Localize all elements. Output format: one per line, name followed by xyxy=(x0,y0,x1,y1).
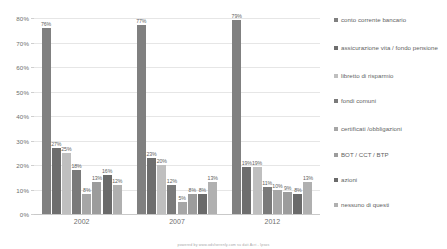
bar-fill xyxy=(178,202,187,214)
bar: 8% xyxy=(293,194,302,214)
bar-value-label: 18% xyxy=(72,163,82,169)
bar: 12% xyxy=(167,185,176,214)
bar: 11% xyxy=(263,187,272,214)
bar-value-label: 16% xyxy=(102,168,112,174)
bar: 8% xyxy=(198,194,207,214)
bar-fill xyxy=(42,28,51,214)
gridline xyxy=(34,214,320,215)
bar-value-label: 8% xyxy=(83,187,90,193)
bar-value-label: 77% xyxy=(136,18,146,24)
legend-item[interactable]: BOT / CCT / BTP xyxy=(334,151,446,159)
legend-swatch-icon xyxy=(334,127,338,131)
y-axis-tick-label: 50% xyxy=(16,88,29,95)
bar-value-label: 23% xyxy=(146,151,156,157)
legend-swatch-icon xyxy=(334,99,338,103)
legend-label: nessuno di questi xyxy=(341,201,389,209)
legend-item[interactable]: certificati /obbligazioni xyxy=(334,125,446,133)
bar: 19% xyxy=(242,167,251,214)
y-axis-tick-label: 0% xyxy=(20,211,29,218)
legend-item[interactable]: azioni xyxy=(334,176,446,184)
x-axis-tick-label: 2012 xyxy=(265,218,281,225)
bar: 77% xyxy=(137,25,146,214)
bar-fill xyxy=(92,182,101,214)
legend-label: fondi comuni xyxy=(341,97,376,105)
legend-label: BOT / CCT / BTP xyxy=(341,151,389,159)
bar-fill xyxy=(147,158,156,214)
bar: 20% xyxy=(157,165,166,214)
bar-value-label: 13% xyxy=(92,175,102,181)
bar: 79% xyxy=(232,20,241,214)
bar: 5% xyxy=(178,202,187,214)
x-axis-tick-label: 2007 xyxy=(169,218,185,225)
bar-value-label: 8% xyxy=(189,187,196,193)
y-axis-tick-label: 10% xyxy=(16,186,29,193)
y-axis-tick-label: 70% xyxy=(16,39,29,46)
y-axis: 80%70%60%50%40%30%20%10%0% xyxy=(0,18,32,214)
bar-value-label: 20% xyxy=(157,158,167,164)
bar-value-label: 19% xyxy=(252,160,262,166)
legend-label: azioni xyxy=(341,176,357,184)
bar-value-label: 8% xyxy=(294,187,301,193)
bar-value-label: 12% xyxy=(112,178,122,184)
legend-item[interactable]: assicurazione vita / fondo pensione xyxy=(334,44,446,52)
plot-area: 80%70%60%50%40%30%20%10%0% 76%27%25%18%8… xyxy=(0,0,330,249)
bar-value-label: 19% xyxy=(242,160,252,166)
bar: 27% xyxy=(52,148,61,214)
bar-fill xyxy=(62,153,71,214)
x-axis-tick-label: 2002 xyxy=(74,218,90,225)
bar-fill xyxy=(72,170,81,214)
legend-swatch-icon xyxy=(334,18,338,22)
bar: 23% xyxy=(147,158,156,214)
bar-value-label: 10% xyxy=(272,183,282,189)
legend-item[interactable]: fondi comuni xyxy=(334,97,446,105)
legend-swatch-icon xyxy=(334,153,338,157)
bar-group: 76%27%25%18%8%13%16%12% xyxy=(34,18,129,214)
y-axis-tick-label: 40% xyxy=(16,113,29,120)
bar-chart: 80%70%60%50%40%30%20%10%0% 76%27%25%18%8… xyxy=(0,0,447,249)
bar-fill xyxy=(208,182,217,214)
bar-value-label: 13% xyxy=(208,175,218,181)
bar-fill xyxy=(113,185,122,214)
y-axis-tick-label: 80% xyxy=(16,15,29,22)
bar-fill xyxy=(157,165,166,214)
bar-fill xyxy=(198,194,207,214)
bar-value-label: 13% xyxy=(303,175,313,181)
bar-group: 79%19%19%11%10%9%8%13% xyxy=(225,18,320,214)
bar: 13% xyxy=(303,182,312,214)
bar-fill xyxy=(293,194,302,214)
bar: 25% xyxy=(62,153,71,214)
bar-value-label: 27% xyxy=(51,141,61,147)
legend-item[interactable]: conto corrente bancario xyxy=(334,16,446,24)
legend-label: conto corrente bancario xyxy=(341,16,406,24)
legend-label: libretto di risparmio xyxy=(341,72,394,80)
bar: 18% xyxy=(72,170,81,214)
bar: 8% xyxy=(82,194,91,214)
bar: 13% xyxy=(208,182,217,214)
bar-fill xyxy=(103,175,112,214)
y-axis-tick-label: 60% xyxy=(16,64,29,71)
bar-fill xyxy=(52,148,61,214)
y-axis-tick xyxy=(31,214,34,215)
legend-item[interactable]: nessuno di questi xyxy=(334,201,446,209)
y-axis-tick-label: 20% xyxy=(16,162,29,169)
bar-fill xyxy=(188,194,197,214)
bar-fill xyxy=(232,20,241,214)
legend: conto corrente bancarioassicurazione vit… xyxy=(330,0,447,249)
bar: 76% xyxy=(42,28,51,214)
bar-fill xyxy=(137,25,146,214)
bar: 19% xyxy=(253,167,262,214)
legend-item[interactable]: libretto di risparmio xyxy=(334,72,446,80)
legend-swatch-icon xyxy=(334,203,338,207)
bar: 8% xyxy=(188,194,197,214)
bar-value-label: 79% xyxy=(232,13,242,19)
legend-swatch-icon xyxy=(334,74,338,78)
footer-credit: powered by www.odvlserenly.com su dati A… xyxy=(0,243,447,247)
bar-group: 77%23%20%12%5%8%8%13% xyxy=(129,18,224,214)
bar-value-label: 8% xyxy=(199,187,206,193)
bar: 12% xyxy=(113,185,122,214)
bar-value-label: 12% xyxy=(167,178,177,184)
bar-fill xyxy=(283,192,292,214)
bar-value-label: 5% xyxy=(178,195,185,201)
bar-fill xyxy=(303,182,312,214)
bar-fill xyxy=(82,194,91,214)
